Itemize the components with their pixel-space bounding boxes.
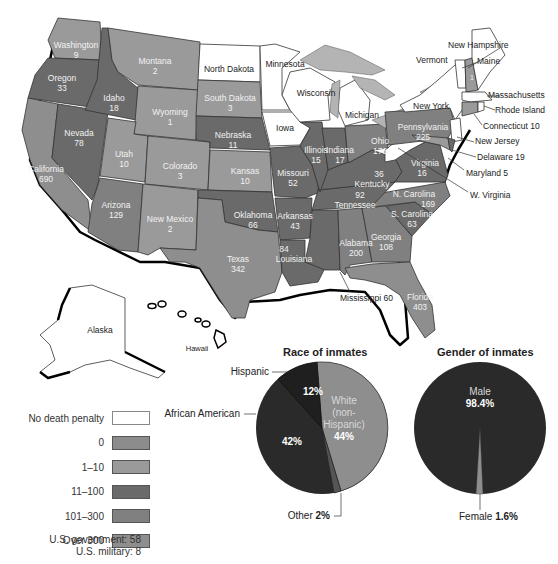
white-pct: 44%	[334, 431, 354, 442]
svg-text:Female 1.6%: Female 1.6%	[459, 511, 518, 522]
hispanic-pct: 12%	[303, 386, 323, 397]
other-pct: 2%	[316, 510, 331, 521]
african-american-pct: 42%	[282, 436, 302, 447]
other-callout: Other	[288, 510, 314, 521]
african-american-callout: African American	[164, 408, 240, 419]
male-label: Male	[469, 386, 491, 397]
gender-pie: Male 98.4% Female 1.6%	[414, 362, 546, 522]
pie-charts: 12% White (non- Hispanic) 44% 42% Hispan…	[0, 0, 558, 564]
white-label-1: White	[331, 395, 357, 406]
male-pct: 98.4%	[466, 398, 494, 409]
female-callout: Female	[459, 511, 493, 522]
white-label-2: (non-	[332, 407, 355, 418]
svg-text:Other 2%: Other 2%	[288, 510, 330, 521]
female-pct: 1.6%	[495, 511, 518, 522]
white-label-3: Hispanic)	[323, 419, 365, 430]
race-pie: 12% White (non- Hispanic) 44% 42% Hispan…	[164, 362, 388, 521]
hispanic-callout: Hispanic	[231, 366, 269, 377]
